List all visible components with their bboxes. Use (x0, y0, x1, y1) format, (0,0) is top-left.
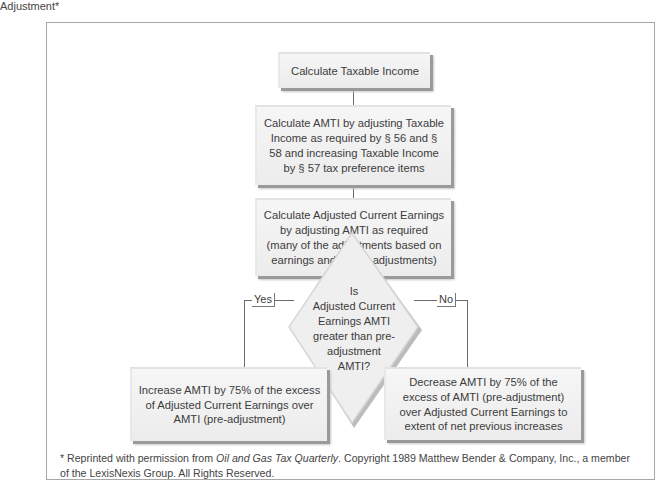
step-text: Calculate AMTI by adjusting Taxable Inco… (263, 116, 445, 175)
footnote-prefix: * Reprinted with permission from (60, 452, 216, 464)
outcome-decrease-amti: Decrease AMTI by 75% of the excess of AM… (384, 367, 581, 440)
footnote: * Reprinted with permission from Oil and… (60, 451, 640, 481)
outcome-text: Increase AMTI by 75% of the excess of Ad… (138, 383, 321, 427)
connector-no-vertical (467, 300, 468, 368)
step-calculate-taxable-income: Calculate Taxable Income (278, 52, 430, 88)
step-calculate-amti: Calculate AMTI by adjusting Taxable Inco… (255, 105, 451, 185)
yes-label: Yes (252, 293, 275, 307)
step-text: Calculate Taxable Income (291, 64, 419, 79)
connector-step1-step2 (353, 90, 354, 106)
outcome-increase-amti: Increase AMTI by 75% of the excess of Ad… (130, 367, 327, 441)
figure-caption: Adjustment* (0, 0, 59, 12)
decision-line1: Is (310, 284, 398, 299)
connector-yes-vertical (244, 300, 245, 368)
decision-line2: Adjusted Current Earnings AMTI greater t… (310, 299, 398, 374)
no-label: No (437, 293, 456, 307)
footnote-source: Oil and Gas Tax Quarterly (216, 452, 338, 464)
outcome-text: Decrease AMTI by 75% of the excess of AM… (392, 375, 575, 434)
decision-question: Is Adjusted Current Earnings AMTI greate… (310, 284, 398, 374)
